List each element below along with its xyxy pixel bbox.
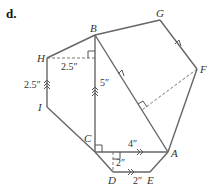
right-angle-icon [88,51,95,58]
vertex-D: D [107,174,116,186]
vertex-B: B [90,22,97,34]
vertex-C: C [84,132,92,144]
vertex-E: E [146,174,154,186]
edge-BA [95,35,168,152]
right-angle-icon [95,145,102,152]
measure-BC: 5″ [100,77,109,88]
vertex-F: F [199,63,207,75]
vertex-A: A [170,147,178,159]
edge-CD [95,152,113,172]
measure-HI: 2.5″ [24,79,41,90]
measure-DE: 2″ [133,175,142,186]
vertex-G: G [156,7,164,19]
arrow-icon [118,70,124,76]
edge-IC [47,107,95,152]
edge-BG [95,20,160,35]
vertex-I: I [37,101,43,113]
edge-EA [150,152,168,172]
measure-CA: 4″ [128,138,137,149]
geometry-figure: d. [0,0,217,188]
edge-GF [160,20,197,69]
edge-FA [168,69,197,152]
measure-height: 2″ [116,157,125,168]
vertex-H: H [36,52,46,64]
figure-label: d. [6,6,16,21]
measurement-labels: 2.5″ 2.5″ 5″ 4″ 2″ 2″ [24,61,142,186]
height-F-to-BA [142,69,197,110]
measure-H-to-BC: 2.5″ [61,61,78,72]
